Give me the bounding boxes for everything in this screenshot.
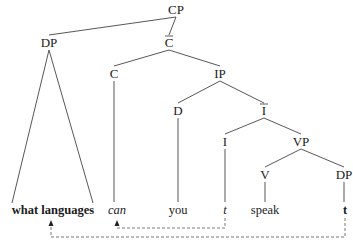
node-c: C: [110, 66, 119, 81]
movement-line-t-DP: [51, 218, 345, 237]
triangle-left-edge: [12, 50, 49, 203]
branch-VP-DP2: [301, 149, 344, 167]
arrowhead-icon: [115, 220, 120, 226]
node-vp: VP: [293, 134, 310, 149]
branch-Ibar-I: [225, 118, 264, 134]
node-dp2: DP: [336, 167, 353, 182]
node-i: I: [223, 134, 227, 149]
movement-line-t-I: [117, 218, 225, 228]
branch-Cbar-C: [114, 50, 169, 66]
leaf-t-I: t: [223, 203, 227, 217]
terminal-branches: [114, 81, 344, 202]
node-cp: CP: [168, 2, 184, 17]
node-d: D: [173, 103, 182, 118]
tree-leaves: what languagescanyoutspeakt: [12, 203, 348, 217]
triangle-right-edge: [49, 50, 93, 203]
branch-VP-V: [265, 149, 301, 167]
movement-arrows: [49, 218, 346, 237]
branch-Cbar-IP: [169, 50, 220, 66]
leaf-can: can: [108, 203, 126, 217]
branch-IP-Ibar: [220, 81, 264, 103]
leaf-what-languages: what languages: [12, 203, 94, 217]
leaf-t-DP: t: [343, 203, 348, 217]
arrowhead-icon: [49, 220, 54, 226]
tree-nodes: CPDPCCIPDIIVPVDP: [41, 2, 353, 182]
node-cbar: C: [165, 35, 174, 50]
dp-triangle: [12, 50, 93, 203]
leaf-you: you: [169, 203, 189, 217]
branch-Ibar-VP: [264, 118, 301, 134]
branch-CP-Cbar: [169, 17, 176, 35]
node-dp1: DP: [41, 35, 58, 50]
leaf-speak: speak: [251, 203, 280, 217]
node-v: V: [260, 167, 270, 182]
node-ibar: I: [262, 103, 266, 118]
node-ip: IP: [214, 66, 226, 81]
syntax-tree-diagram: CPDPCCIPDIIVPVDP what languagescanyoutsp…: [0, 0, 353, 241]
branch-IP-D: [178, 81, 220, 103]
branch-CP-DP1: [49, 17, 176, 35]
